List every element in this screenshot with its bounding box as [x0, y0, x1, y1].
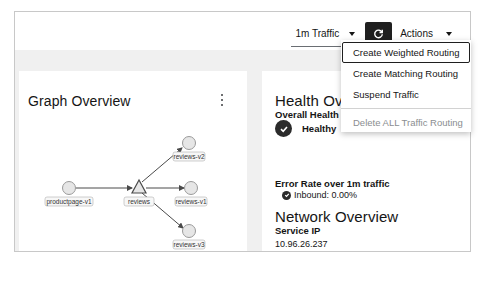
node-reviews[interactable]: reviews [124, 180, 154, 206]
node-reviews-v3[interactable]: reviews-v3 [173, 225, 205, 250]
health-status-text: Healthy [302, 123, 336, 134]
node-reviews-v2[interactable]: reviews-v2 [173, 137, 205, 162]
service-ip-value: 10.96.26.237 [275, 239, 328, 249]
inbound-error-rate: Inbound: 0.00% [282, 190, 357, 200]
overall-health-label: Overall Health [275, 109, 339, 120]
check-circle-icon [282, 191, 291, 200]
menu-item-suspend-traffic[interactable]: Suspend Traffic [341, 84, 471, 105]
menu-divider [341, 108, 471, 109]
menu-item-create-matching-routing[interactable]: Create Matching Routing [341, 63, 471, 84]
menu-item-delete-all-traffic-routing: Delete ALL Traffic Routing [341, 112, 471, 133]
network-overview-title: Network Overview [275, 208, 398, 225]
service-graph: productpage-v1 reviews reviews-v2 review… [19, 71, 247, 252]
node-reviews-v1[interactable]: reviews-v1 [175, 182, 207, 207]
actions-dropdown-menu: Create Weighted Routing Create Matching … [341, 40, 471, 132]
health-status: Healthy [275, 120, 336, 137]
svg-text:reviews-v1: reviews-v1 [175, 198, 206, 205]
check-circle-icon [275, 120, 292, 137]
refresh-icon [373, 28, 384, 39]
svg-text:reviews: reviews [128, 198, 151, 205]
node-productpage-v1[interactable]: productpage-v1 [45, 182, 93, 207]
caret-down-icon [446, 32, 452, 36]
error-rate-label: Error Rate over 1m traffic [275, 178, 390, 189]
actions-label: Actions [400, 28, 433, 39]
svg-text:reviews-v2: reviews-v2 [173, 153, 204, 160]
traffic-duration-value: 1m Traffic [295, 28, 339, 39]
graph-overview-card: Graph Overview productpage-v1 [19, 71, 247, 252]
caret-down-icon [349, 32, 355, 36]
inbound-value: Inbound: 0.00% [294, 190, 357, 200]
service-ip-label: Service IP [275, 225, 320, 236]
menu-item-create-weighted-routing[interactable]: Create Weighted Routing [342, 42, 470, 63]
svg-text:reviews-v3: reviews-v3 [173, 241, 204, 248]
svg-text:productpage-v1: productpage-v1 [46, 198, 92, 206]
